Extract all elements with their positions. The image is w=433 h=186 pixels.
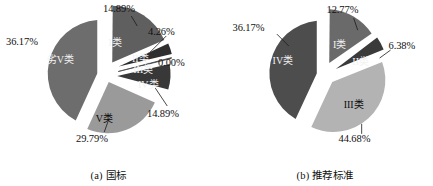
pct-a-iii: 0.00% bbox=[158, 57, 185, 68]
leader-b-ii bbox=[379, 50, 390, 58]
panel-tuijianbiaozhun: I类 II类 III类 IV类 12.77% 6.38% 44.68% 36.1… bbox=[217, 0, 433, 186]
pct-a-v: 29.79% bbox=[76, 133, 108, 144]
slice-a-i-label: I类 bbox=[109, 36, 122, 48]
pct-b-i: 12.77% bbox=[327, 4, 359, 15]
pct-a-i: 14.89% bbox=[103, 3, 135, 14]
slice-a-v-label: V类 bbox=[96, 112, 113, 124]
slice-b-iii-label: III类 bbox=[343, 98, 363, 110]
caption-panel-b: (b) 推荐标准 bbox=[217, 167, 433, 182]
pct-a-iv: 14.89% bbox=[147, 108, 179, 119]
pct-a-ii: 4.26% bbox=[148, 26, 175, 37]
slice-b-iv-label: IV类 bbox=[272, 54, 293, 66]
pie-chart-figure: I类 II类 III类 IV类 V类 劣V类 14.89% 4.26% 0.00… bbox=[0, 0, 433, 186]
slice-b-ii-label: II类 bbox=[352, 55, 369, 67]
slice-a-ii-label: II类 bbox=[132, 52, 149, 64]
slice-b-iv[interactable] bbox=[269, 21, 316, 119]
pct-a-liev: 36.17% bbox=[6, 36, 38, 47]
slice-b-i-label: I类 bbox=[333, 38, 346, 50]
leader-a-iv bbox=[155, 88, 167, 106]
slice-a-iv-label: IV类 bbox=[138, 78, 159, 90]
slice-a-liev-label: 劣V类 bbox=[47, 53, 74, 65]
pct-b-iii: 44.68% bbox=[339, 133, 371, 144]
slice-b-iii[interactable] bbox=[311, 62, 385, 132]
panel-guobiao: I类 II类 III类 IV类 V类 劣V类 14.89% 4.26% 0.00… bbox=[0, 0, 217, 186]
pie-chart-a: I类 II类 III类 IV类 V类 劣V类 bbox=[0, 0, 217, 158]
pie-a-svg: I类 II类 III类 IV类 V类 劣V类 bbox=[0, 0, 217, 158]
pct-b-iv: 36.17% bbox=[233, 22, 265, 33]
slice-a-iii-label: III类 bbox=[133, 63, 153, 75]
caption-panel-a: (a) 国标 bbox=[0, 167, 217, 182]
pct-b-ii: 6.38% bbox=[389, 40, 416, 51]
slice-a-liev[interactable] bbox=[48, 20, 98, 120]
